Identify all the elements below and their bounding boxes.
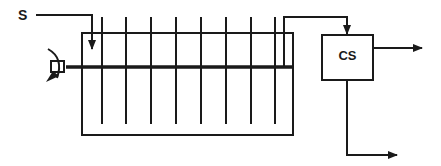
separator-label: CS [322, 48, 373, 63]
inlet-label: S [18, 7, 27, 23]
diagram-canvas [0, 0, 441, 166]
contactor-tank [82, 33, 293, 135]
sludge-flow-arrow [347, 80, 397, 155]
drive-motor-icon [46, 49, 64, 82]
